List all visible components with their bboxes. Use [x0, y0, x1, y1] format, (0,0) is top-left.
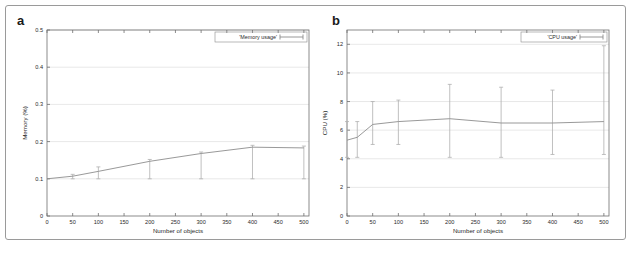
x-tick-label: 450 — [274, 219, 283, 225]
x-tick-label: 250 — [171, 219, 180, 225]
y-tick-label: 0 — [40, 213, 43, 219]
x-tick-label: 400 — [548, 219, 557, 225]
x-tick-label: 350 — [222, 219, 231, 225]
y-tick-label: 0.3 — [35, 101, 43, 107]
x-tick-label: 300 — [496, 219, 505, 225]
legend-label: 'CPU usage' — [547, 34, 577, 40]
x-tick-label: 100 — [94, 219, 103, 225]
y-tick-label: 0.1 — [35, 176, 43, 182]
figure-container: a 00.10.20.30.40.50501001502002503003504… — [0, 0, 631, 253]
panel-b: b 02468101205010015020025030035040045050… — [315, 0, 630, 253]
y-axis-title: CPU (%) — [321, 111, 328, 135]
x-tick-label: 150 — [419, 219, 428, 225]
x-axis-title: Number of objects — [453, 227, 503, 234]
x-axis-title: Number of objects — [153, 227, 203, 234]
y-tick-label: 6 — [340, 127, 343, 133]
y-tick-label: 8 — [340, 99, 343, 105]
y-tick-label: 0.4 — [35, 64, 43, 70]
y-tick-label: 0 — [340, 213, 343, 219]
panel-b-plot: 024681012050100150200250300350400450500N… — [315, 0, 631, 253]
x-tick-label: 0 — [45, 219, 48, 225]
legend-label: 'Memory usage' — [239, 34, 277, 40]
data-series-line — [347, 119, 604, 140]
y-tick-label: 2 — [340, 184, 343, 190]
data-series-line — [47, 147, 304, 179]
y-tick-label: 0.5 — [35, 27, 43, 33]
x-tick-label: 400 — [248, 219, 257, 225]
x-tick-label: 100 — [394, 219, 403, 225]
x-tick-label: 200 — [445, 219, 454, 225]
x-tick-label: 250 — [471, 219, 480, 225]
y-tick-label: 12 — [337, 41, 343, 47]
x-tick-label: 300 — [196, 219, 205, 225]
x-tick-label: 0 — [345, 219, 348, 225]
x-tick-label: 350 — [522, 219, 531, 225]
panel-a: a 00.10.20.30.40.50501001502002503003504… — [0, 0, 315, 253]
x-tick-label: 500 — [299, 219, 308, 225]
x-tick-label: 50 — [370, 219, 376, 225]
x-tick-label: 50 — [70, 219, 76, 225]
x-tick-label: 150 — [119, 219, 128, 225]
panel-a-plot: 00.10.20.30.40.5050100150200250300350400… — [0, 0, 315, 253]
x-tick-label: 500 — [599, 219, 608, 225]
x-tick-label: 450 — [574, 219, 583, 225]
y-tick-label: 0.2 — [35, 139, 43, 145]
y-tick-label: 4 — [340, 156, 343, 162]
y-axis-title: Memory (%) — [21, 106, 28, 140]
y-tick-label: 10 — [337, 70, 343, 76]
x-tick-label: 200 — [145, 219, 154, 225]
plot-frame — [47, 30, 309, 216]
